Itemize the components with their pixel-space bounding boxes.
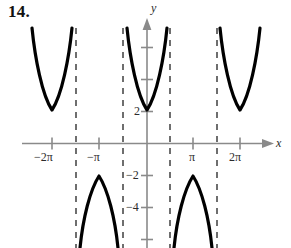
y-tick-label-neg-4: −4 bbox=[126, 200, 139, 215]
graph-plot-area bbox=[0, 0, 291, 248]
right-lower-branch bbox=[174, 176, 212, 248]
y-axis-label: y bbox=[151, 1, 156, 16]
left-upper-branch bbox=[32, 28, 72, 110]
y-axis bbox=[143, 18, 152, 248]
x-tick-label-2pi: 2π bbox=[229, 150, 241, 165]
x-tick-label-pi: π bbox=[189, 150, 195, 165]
secant-curve bbox=[32, 28, 260, 248]
x-axis bbox=[22, 139, 274, 148]
left-lower-branch bbox=[80, 176, 118, 248]
right-upper-branch bbox=[220, 28, 260, 110]
x-tick-label-neg-pi: −π bbox=[87, 150, 100, 165]
x-tick-label-neg-2pi: −2π bbox=[34, 150, 53, 165]
y-tick-label-neg-2: −2 bbox=[126, 168, 139, 183]
figure-container: 14. bbox=[0, 0, 291, 248]
x-axis-label: x bbox=[276, 136, 281, 151]
y-tick-label-2: 2 bbox=[134, 104, 140, 119]
